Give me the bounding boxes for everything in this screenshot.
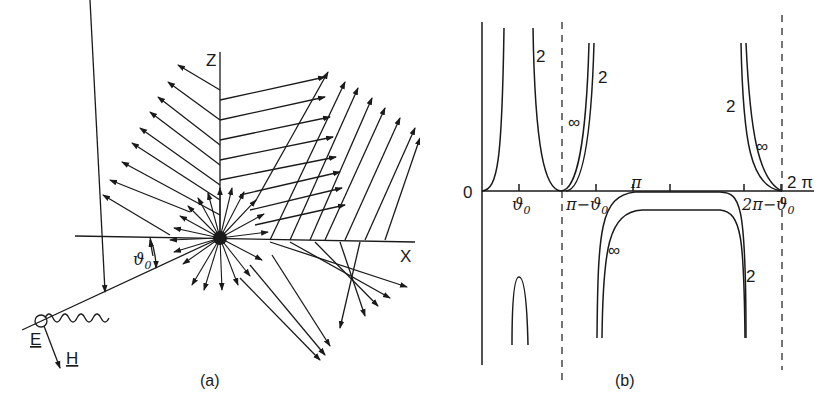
tick-pi-minus-theta0: π−ϑ0: [565, 195, 608, 217]
left-reflected-rays: [103, 65, 220, 235]
curve-label-2a: 2: [536, 47, 545, 66]
curve-right-inf: [746, 43, 782, 191]
angular-plot: 0 ϑ0 π−ϑ0 π 2π−ϑ0 2 π 2 2 ∞ 2 ∞ ∞ 2 (b): [420, 0, 824, 402]
panel-a-caption: (a): [200, 372, 220, 389]
e-field-label: E: [30, 330, 41, 349]
x-axis-line: [75, 236, 415, 242]
curve-negative-cap: [512, 277, 528, 345]
origin-label: 0: [463, 183, 472, 202]
scattering-center: [213, 231, 227, 245]
diagonal-rays-down: [240, 242, 407, 360]
h-field-label: H: [66, 349, 78, 368]
curve-label-inf-b: ∞: [756, 137, 768, 156]
curve-negative-inner: [602, 210, 745, 338]
diagonal-rays-up: [255, 72, 420, 240]
curve-label-2d: 2: [746, 267, 755, 286]
curve-negative-outer: [597, 192, 746, 338]
curve-label-2b: 2: [598, 68, 607, 87]
tick-two-pi: 2 π: [787, 173, 813, 192]
panel-b-caption: (b): [615, 372, 635, 389]
curve-label-2c: 2: [726, 97, 735, 116]
tick-pi: π: [630, 173, 642, 192]
figure-panel-a: Z X ϑ0 E H (a): [0, 0, 420, 402]
z-axis-label: Z: [206, 51, 216, 70]
tick-theta0: ϑ0: [512, 195, 530, 217]
curve-label-inf-a: ∞: [568, 113, 580, 132]
figure-panel-b: 0 ϑ0 π−ϑ0 π 2π−ϑ0 2 π 2 2 ∞ 2 ∞ ∞ 2 (b): [420, 0, 824, 402]
curve-label-inf-c: ∞: [608, 241, 620, 260]
scattering-diagram: Z X ϑ0 E H (a): [0, 0, 420, 402]
x-axis-label: X: [400, 247, 411, 266]
h-field-arrow: [44, 326, 60, 368]
angle-label: ϑ0: [133, 250, 151, 272]
tick-two-pi-minus-theta0: 2π−ϑ0: [741, 195, 795, 217]
curve-rise-left: [482, 28, 504, 191]
